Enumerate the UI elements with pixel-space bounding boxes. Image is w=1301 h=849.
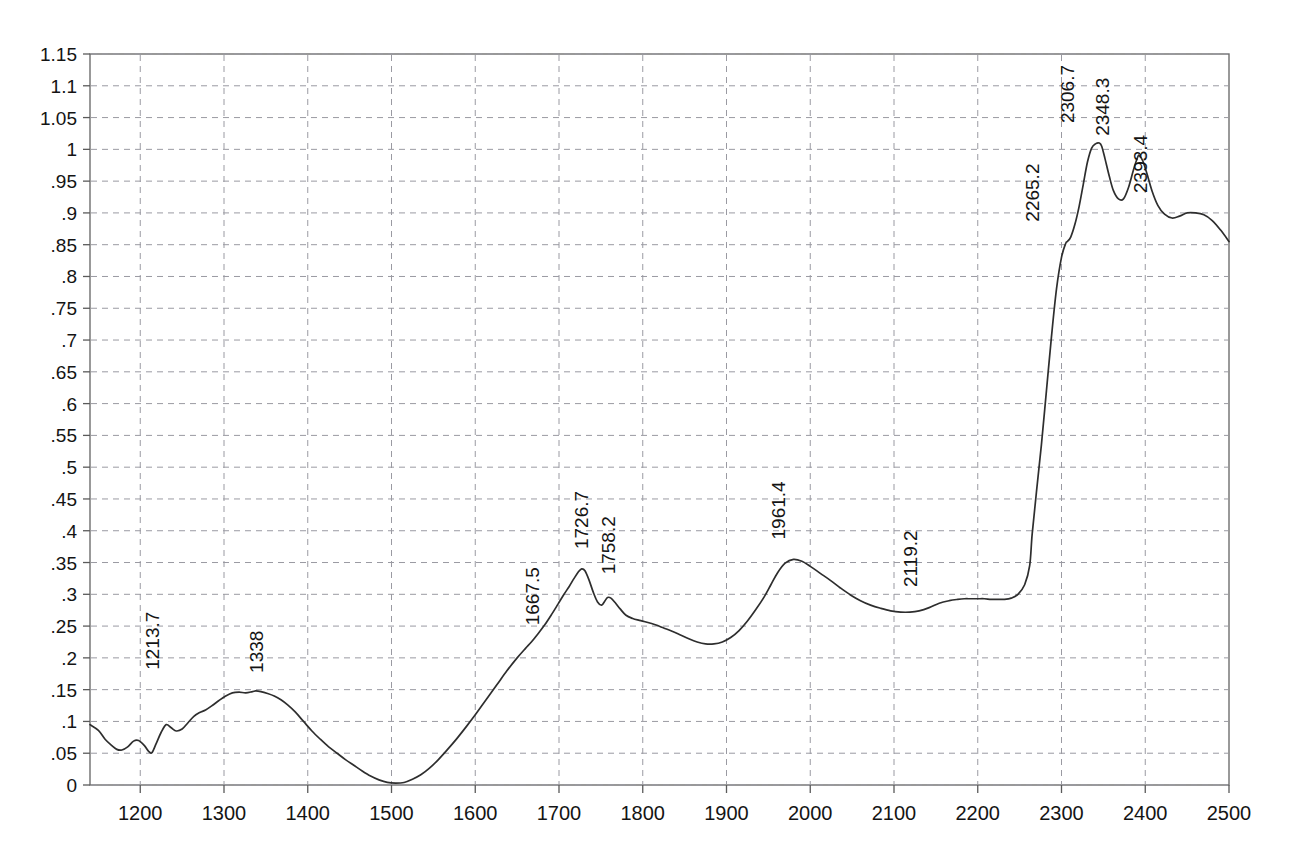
y-axis-tick-label: .15: [51, 680, 77, 701]
y-axis-tick-label: .85: [51, 235, 77, 256]
peak-label: 1338: [246, 631, 267, 673]
y-axis-tick-label: 0: [66, 775, 77, 796]
y-axis-tick-label: 1.15: [40, 44, 77, 65]
y-axis-tick-label: .55: [51, 425, 77, 446]
x-axis-tick-label: 2000: [788, 802, 833, 824]
plot-area: [90, 54, 1229, 785]
x-axis-tick-label: 1700: [537, 802, 582, 824]
y-axis-tick-label: .75: [51, 298, 77, 319]
y-axis-tick-label: 1.1: [51, 76, 77, 97]
y-axis-tick-label: .45: [51, 489, 77, 510]
chart-page: 0.05.1.15.2.25.3.35.4.45.5.55.6.65.7.75.…: [0, 0, 1301, 849]
peak-label: 2265.2: [1022, 164, 1043, 222]
x-axis-tick-label: 1800: [621, 802, 666, 824]
peak-label: 1667.5: [522, 567, 543, 625]
x-axis-tick-label: 2100: [872, 802, 917, 824]
peak-label: 1961.4: [768, 481, 789, 540]
y-axis-tick-label: .95: [51, 171, 77, 192]
y-axis-tick-label: .65: [51, 362, 77, 383]
x-axis-tick-label: 1600: [453, 802, 498, 824]
spectrum-chart: 0.05.1.15.2.25.3.35.4.45.5.55.6.65.7.75.…: [0, 0, 1301, 849]
y-axis-tick-label: .35: [51, 553, 77, 574]
peak-label: 1758.2: [598, 516, 619, 574]
x-axis-tick-label: 1400: [286, 802, 331, 824]
x-axis-tick-label: 1200: [118, 802, 163, 824]
y-axis-tick-label: .4: [61, 521, 77, 542]
x-axis-tick-label: 2400: [1123, 802, 1168, 824]
y-axis-tick-label: 1: [66, 139, 77, 160]
x-axis-tick-label: 1300: [202, 802, 247, 824]
y-axis-tick-label: 1.05: [40, 108, 77, 129]
peak-label: 1213.7: [142, 612, 163, 670]
peak-label: 2393.4: [1130, 134, 1151, 193]
y-axis-tick-label: .2: [61, 648, 77, 669]
x-axis-tick-label: 2300: [1039, 802, 1084, 824]
y-axis-tick-label: .7: [61, 330, 77, 351]
x-axis-tick-label: 1500: [369, 802, 414, 824]
peak-label: 2119.2: [900, 530, 921, 587]
y-axis-tick-label: .9: [61, 203, 77, 224]
y-axis-tick-label: .5: [61, 457, 77, 478]
x-axis-tick-label: 2500: [1207, 802, 1252, 824]
y-axis-tick-label: .25: [51, 616, 77, 637]
y-axis-tick-label: .8: [61, 266, 77, 287]
x-axis-tick-label: 2200: [956, 802, 1001, 824]
x-axis-tick-label: 1900: [704, 802, 749, 824]
y-axis-tick-label: .6: [61, 394, 77, 415]
peak-label: 1726.7: [571, 491, 592, 549]
peak-label: 2348.3: [1092, 78, 1113, 136]
y-axis-tick-label: .3: [61, 584, 77, 605]
y-axis-tick-label: .05: [51, 743, 77, 764]
y-axis-tick-label: .1: [61, 711, 77, 732]
peak-label: 2306.7: [1057, 65, 1078, 123]
